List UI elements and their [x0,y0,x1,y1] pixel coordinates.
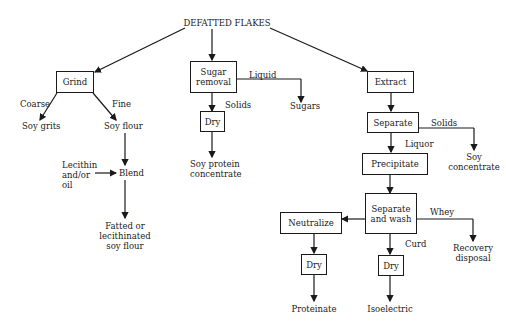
solids-label-concentrate: Solids [225,100,251,110]
coarse-label: Coarse [20,99,50,109]
whey-label: Whey [430,207,454,217]
recovery-line2: disposal [455,253,490,263]
sugar-removal-line1: Sugar [201,67,227,77]
precipitate-label: Precipitate [371,159,418,169]
liquid-label: Liquid [249,70,276,80]
dry-box-right: Dry [378,255,404,276]
dry-label-right: Dry [383,261,399,271]
dry-label-concentrate: Dry [205,117,221,127]
sugar-removal-box: Sugar removal [190,61,237,93]
extract-label: Extract [375,77,407,87]
sugars-label: Sugars [290,101,320,111]
separate-label: Separate [374,118,413,128]
separate-and-wash-line2: and wash [371,214,412,224]
liquor-label: Liquor [405,139,433,149]
fine-label: Fine [112,99,131,109]
dry-box-concentrate: Dry [200,111,225,132]
proteinate-label: Proteinate [291,304,336,314]
grind-box: Grind [56,71,94,93]
neutralize-box: Neutralize [280,212,342,234]
title-defatted-flakes: DEFATTED FLAKES [183,18,270,28]
separate-box: Separate [367,112,419,133]
grind-label: Grind [63,77,88,87]
fatted-line3: soy flour [106,241,143,251]
sugar-removal-line2: removal [196,77,231,87]
neutralize-label: Neutralize [288,218,333,228]
soy-flour-label: Soy flour [104,121,143,131]
dry-box-left: Dry [301,254,327,275]
fatted-line1: Fatted or [105,221,145,231]
isoelectric-label: Isoelectric [367,304,412,314]
dry-label-left: Dry [306,260,322,270]
soy-concentrate-line1: Soy [466,152,482,162]
extract-box: Extract [367,71,414,93]
separate-and-wash-box: Separate and wash [365,193,417,234]
fatted-line2: lecithinated [99,231,150,241]
solids-label-isolate: Solids [431,118,457,128]
soy-concentrate-line2: concentrate [448,162,500,172]
separate-and-wash-line1: Separate [372,204,411,214]
precipitate-box: Precipitate [362,153,428,175]
recovery-line1: Recovery [453,243,493,253]
curd-label: Curd [405,239,426,249]
blend-label: Blend [119,168,144,178]
soy-protein-concentrate-line2: concentrate [190,169,242,179]
lecithin-line2: and/or [62,170,90,180]
lecithin-line1: Lecithin [62,160,97,170]
soy-grits-label: Soy grits [22,121,60,131]
lecithin-line3: oil [62,180,73,190]
soy-protein-concentrate-line1: Soy protein [190,159,240,169]
